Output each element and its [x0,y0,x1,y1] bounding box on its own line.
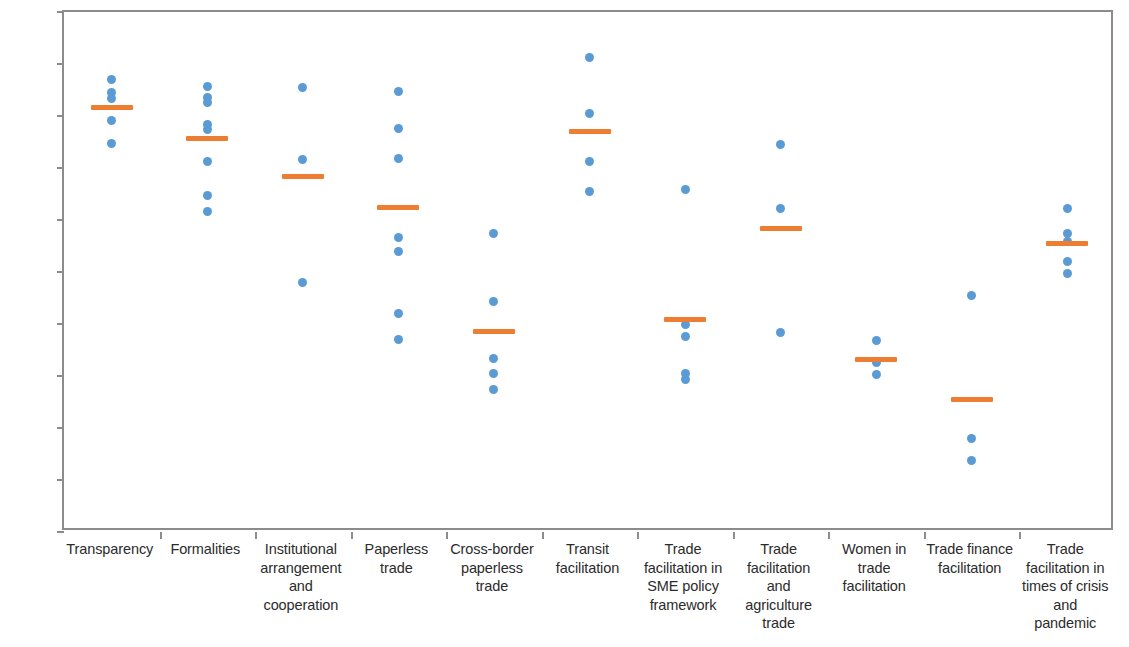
x-axis-category-label: Paperless trade [343,540,451,577]
data-point [203,157,212,166]
average-marker [186,136,228,141]
data-point [203,98,212,107]
data-point [107,94,116,103]
average-marker [473,329,515,334]
data-point [489,297,498,306]
data-point [298,278,307,287]
y-axis-tick-mark [57,63,64,65]
plot-inner [64,12,1111,528]
y-axis-tick-mark [57,531,64,533]
data-point [298,83,307,92]
y-axis-tick-mark [57,479,64,481]
y-axis-tick-mark [57,427,64,429]
data-point [585,187,594,196]
data-point [967,291,976,300]
average-marker [951,397,993,402]
y-axis-tick-mark [57,115,64,117]
x-axis-category-label: Institutional arrangement and cooperatio… [247,540,355,614]
x-axis-category-label: Trade facilitation in times of crisis an… [1011,540,1119,633]
x-axis-category-label: Trade finance facilitation [916,540,1024,577]
data-point [585,157,594,166]
average-marker [91,105,133,110]
data-point [203,82,212,91]
x-axis-category-label: Transparency [56,540,164,559]
x-axis-category-label: Transit facilitation [534,540,642,577]
data-point [394,124,403,133]
data-point [394,233,403,242]
average-marker [855,357,897,362]
x-axis-category-label: Women in trade facilitation [820,540,928,596]
x-axis-tick-mark [637,532,639,539]
x-axis-category-label: Cross-border paperless trade [438,540,546,596]
average-marker [377,205,419,210]
average-marker [760,226,802,231]
data-point [489,229,498,238]
data-point [681,375,690,384]
x-axis-category-label: Formalities [152,540,260,559]
x-axis-category-label: Trade facilitation in SME policy framewo… [629,540,737,614]
plot-area [62,10,1113,530]
x-axis-tick-mark [255,532,257,539]
data-point [107,75,116,84]
data-point [776,204,785,213]
data-point [681,332,690,341]
y-axis-tick-mark [57,271,64,273]
x-axis-tick-mark [351,532,353,539]
data-point [107,139,116,148]
data-point [203,207,212,216]
data-point [489,369,498,378]
data-point [776,140,785,149]
data-point [107,116,116,125]
data-point [1063,204,1072,213]
y-axis-tick-mark [57,11,64,13]
data-point [298,155,307,164]
y-axis-tick-mark [57,219,64,221]
data-point [872,336,881,345]
data-point [585,109,594,118]
x-axis-tick-mark [1019,532,1021,539]
average-marker [1046,241,1088,246]
data-point [1063,257,1072,266]
data-point [776,328,785,337]
y-axis-tick-mark [57,375,64,377]
data-point [1063,269,1072,278]
data-point [394,247,403,256]
data-point [203,125,212,134]
data-point [203,191,212,200]
x-axis-tick-mark [446,532,448,539]
data-point [967,434,976,443]
x-axis-category-label: Trade facilitation and agriculture trade [725,540,833,633]
average-marker [664,317,706,322]
y-axis-tick-mark [57,323,64,325]
data-point [967,456,976,465]
data-point [872,370,881,379]
dot-plot-chart: 0%10%20%30%40%50%60%70%80%90%100%Transpa… [0,0,1129,647]
x-axis-tick-mark [542,532,544,539]
data-point [489,354,498,363]
data-point [394,87,403,96]
data-point [681,185,690,194]
average-marker [569,129,611,134]
x-axis-tick-mark [160,532,162,539]
x-axis-tick-mark [733,532,735,539]
x-axis-tick-mark [828,532,830,539]
x-axis-tick-mark [924,532,926,539]
data-point [394,309,403,318]
data-point [489,385,498,394]
y-axis-tick-mark [57,167,64,169]
data-point [585,53,594,62]
data-point [394,154,403,163]
data-point [394,335,403,344]
average-marker [282,174,324,179]
